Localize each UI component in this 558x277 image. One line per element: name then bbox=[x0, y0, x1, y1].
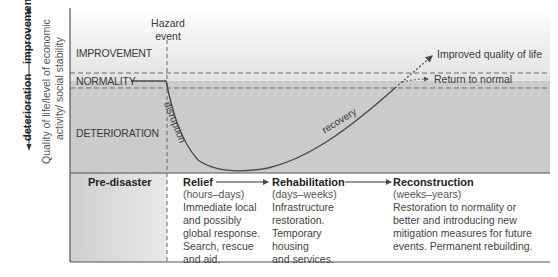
phase-relief-line: and possibly bbox=[183, 214, 260, 227]
phase-reconstruction-line: Restoration to normality or bbox=[393, 201, 533, 214]
phase-relief-line: Search, rescue bbox=[183, 240, 260, 253]
phase-rehabilitation-line: and services. bbox=[272, 253, 345, 266]
phase-rehabilitation-line: Temporary bbox=[272, 227, 345, 240]
hazard-event-line2: event bbox=[146, 30, 190, 43]
phase-reconstruction-title: Reconstruction bbox=[393, 176, 533, 188]
axis-arrow-down-icon bbox=[27, 144, 32, 151]
improvement-band-label: IMPROVEMENT bbox=[76, 47, 152, 59]
phase-reconstruction-line: better and introducing new bbox=[393, 214, 533, 227]
improved-quality-label: Improved quality of life bbox=[437, 48, 542, 60]
hazard-event-label: Hazard event bbox=[146, 17, 190, 43]
phase-relief-title: Relief bbox=[183, 176, 260, 188]
phase-rehabilitation-line: Infrastructure bbox=[272, 201, 345, 214]
phase-relief-line: and aid. bbox=[183, 253, 260, 266]
disaster-response-diagram: improvement deterioration Quality of lif… bbox=[0, 0, 558, 277]
phase-rehabilitation-time: (days–weeks) bbox=[272, 188, 345, 201]
axis-down-label: deterioration bbox=[21, 74, 33, 141]
phase-rehabilitation-title: Rehabilitation bbox=[272, 176, 345, 188]
phase-predisaster-title: Pre-disaster bbox=[88, 176, 152, 188]
phase-relief-time: (hours–days) bbox=[183, 188, 260, 201]
return-to-normal-label: Return to normal bbox=[434, 73, 512, 85]
phase-rehabilitation-line: housing bbox=[272, 240, 345, 253]
deterioration-band-label: DETERIORATION bbox=[76, 127, 159, 139]
phase-reconstruction-line: mitigation measures for future bbox=[393, 227, 533, 240]
phase-relief-line: Immediate local bbox=[183, 201, 260, 214]
phase-reconstruction-time: (weeks–years) bbox=[393, 188, 533, 201]
phase-reconstruction-line: events. Permanent rebuilding. bbox=[393, 240, 533, 253]
phase-reconstruction: Reconstruction (weeks–years) Restoration… bbox=[393, 176, 533, 253]
normality-band-label: NORMALITY bbox=[76, 75, 135, 87]
phase-rehabilitation: Rehabilitation (days–weeks) Infrastructu… bbox=[272, 176, 345, 266]
improvement-band bbox=[70, 8, 550, 81]
phase-relief-line: global response. bbox=[183, 227, 260, 240]
hazard-event-line1: Hazard bbox=[146, 17, 190, 30]
phase-rehabilitation-line: restoration. bbox=[272, 214, 345, 227]
axis-title-line2: activity/ social stability bbox=[53, 37, 65, 140]
axis-up-label: improvement bbox=[21, 0, 33, 64]
axis-title-line1: Quality of life/level of economic bbox=[40, 19, 52, 164]
phase-relief: Relief (hours–days) Immediate local and … bbox=[183, 176, 260, 266]
